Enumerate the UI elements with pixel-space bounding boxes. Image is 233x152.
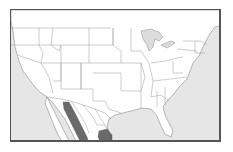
map-frame: Species range map — [10, 9, 221, 142]
land-mass — [11, 10, 221, 142]
map-canvas — [11, 10, 221, 142]
range-area-ne-mexico — [98, 129, 112, 142]
